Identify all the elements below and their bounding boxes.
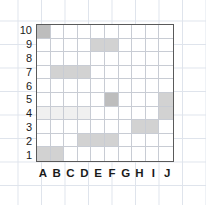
grid-cell-E8[interactable] <box>91 52 105 66</box>
grid-cell-A1[interactable] <box>37 147 51 161</box>
grid-cell-C6[interactable] <box>64 79 78 93</box>
grid-cell-I8[interactable] <box>146 52 160 66</box>
grid-cell-J5[interactable] <box>159 93 173 107</box>
grid-cell-G3[interactable] <box>119 120 133 134</box>
grid-cell-B3[interactable] <box>51 120 65 134</box>
grid-cell-G1[interactable] <box>119 147 133 161</box>
grid-cell-D4[interactable] <box>78 107 92 121</box>
grid-cell-C1[interactable] <box>64 147 78 161</box>
grid-cell-B10[interactable] <box>51 25 65 39</box>
grid-cell-F8[interactable] <box>105 52 119 66</box>
grid-cell-F7[interactable] <box>105 66 119 80</box>
grid-cell-F3[interactable] <box>105 120 119 134</box>
grid-cell-G4[interactable] <box>119 107 133 121</box>
grid-cell-B6[interactable] <box>51 79 65 93</box>
grid-cell-H6[interactable] <box>132 79 146 93</box>
grid-cell-G10[interactable] <box>119 25 133 39</box>
grid-cell-A7[interactable] <box>37 66 51 80</box>
grid-cell-E2[interactable] <box>91 134 105 148</box>
grid-cell-I7[interactable] <box>146 66 160 80</box>
grid-cell-D1[interactable] <box>78 147 92 161</box>
grid-cell-G2[interactable] <box>119 134 133 148</box>
grid-cell-J6[interactable] <box>159 79 173 93</box>
grid-cell-J10[interactable] <box>159 25 173 39</box>
grid-cell-D3[interactable] <box>78 120 92 134</box>
grid-cell-F1[interactable] <box>105 147 119 161</box>
grid-cell-A4[interactable] <box>37 107 51 121</box>
grid-cell-B8[interactable] <box>51 52 65 66</box>
grid-cell-C7[interactable] <box>64 66 78 80</box>
grid-cell-E4[interactable] <box>91 107 105 121</box>
grid-cell-G9[interactable] <box>119 39 133 53</box>
grid-cell-A6[interactable] <box>37 79 51 93</box>
grid-cell-F4[interactable] <box>105 107 119 121</box>
grid-cell-C5[interactable] <box>64 93 78 107</box>
grid-cell-A10[interactable] <box>37 25 51 39</box>
grid-cell-J1[interactable] <box>159 147 173 161</box>
grid-cell-F5[interactable] <box>105 93 119 107</box>
grid-cell-C4[interactable] <box>64 107 78 121</box>
grid-cell-A2[interactable] <box>37 134 51 148</box>
grid-cell-J4[interactable] <box>159 107 173 121</box>
grid-cell-H1[interactable] <box>132 147 146 161</box>
grid-cell-J9[interactable] <box>159 39 173 53</box>
grid-cell-A3[interactable] <box>37 120 51 134</box>
grid-cell-H3[interactable] <box>132 120 146 134</box>
grid-cell-I4[interactable] <box>146 107 160 121</box>
grid-cell-G5[interactable] <box>119 93 133 107</box>
grid-cell-D5[interactable] <box>78 93 92 107</box>
grid-cell-C3[interactable] <box>64 120 78 134</box>
grid-cell-C9[interactable] <box>64 39 78 53</box>
grid-cell-D7[interactable] <box>78 66 92 80</box>
grid-cell-C8[interactable] <box>64 52 78 66</box>
grid-cell-E9[interactable] <box>91 39 105 53</box>
grid-cell-D8[interactable] <box>78 52 92 66</box>
grid-cell-B2[interactable] <box>51 134 65 148</box>
grid-cell-G8[interactable] <box>119 52 133 66</box>
grid-cell-J3[interactable] <box>159 120 173 134</box>
grid-cell-D9[interactable] <box>78 39 92 53</box>
grid-cell-J8[interactable] <box>159 52 173 66</box>
grid-cell-H4[interactable] <box>132 107 146 121</box>
grid-cell-F10[interactable] <box>105 25 119 39</box>
grid-cell-D10[interactable] <box>78 25 92 39</box>
grid-cell-I6[interactable] <box>146 79 160 93</box>
grid-cell-B4[interactable] <box>51 107 65 121</box>
grid-cell-I1[interactable] <box>146 147 160 161</box>
grid-cell-J2[interactable] <box>159 134 173 148</box>
grid-cell-I5[interactable] <box>146 93 160 107</box>
grid-cell-B9[interactable] <box>51 39 65 53</box>
grid-cell-G6[interactable] <box>119 79 133 93</box>
grid-cell-H9[interactable] <box>132 39 146 53</box>
grid-cell-E7[interactable] <box>91 66 105 80</box>
grid-cell-I9[interactable] <box>146 39 160 53</box>
grid-cell-F9[interactable] <box>105 39 119 53</box>
grid-cell-B5[interactable] <box>51 93 65 107</box>
grid-cell-H8[interactable] <box>132 52 146 66</box>
grid-cell-J7[interactable] <box>159 66 173 80</box>
grid-cell-B7[interactable] <box>51 66 65 80</box>
grid-cell-E3[interactable] <box>91 120 105 134</box>
grid-cell-F6[interactable] <box>105 79 119 93</box>
grid-cell-B1[interactable] <box>51 147 65 161</box>
grid-cell-F2[interactable] <box>105 134 119 148</box>
grid-cell-H2[interactable] <box>132 134 146 148</box>
grid-cell-C2[interactable] <box>64 134 78 148</box>
grid-cell-H5[interactable] <box>132 93 146 107</box>
grid-cell-C10[interactable] <box>64 25 78 39</box>
grid-cell-E5[interactable] <box>91 93 105 107</box>
grid-cell-D6[interactable] <box>78 79 92 93</box>
grid-cell-I2[interactable] <box>146 134 160 148</box>
grid-cell-A8[interactable] <box>37 52 51 66</box>
grid-cell-G7[interactable] <box>119 66 133 80</box>
grid-cell-I10[interactable] <box>146 25 160 39</box>
grid-cell-H10[interactable] <box>132 25 146 39</box>
grid-cell-E10[interactable] <box>91 25 105 39</box>
grid-cell-E6[interactable] <box>91 79 105 93</box>
grid-cell-A5[interactable] <box>37 93 51 107</box>
grid-cell-H7[interactable] <box>132 66 146 80</box>
grid-cell-A9[interactable] <box>37 39 51 53</box>
grid-cell-D2[interactable] <box>78 134 92 148</box>
grid-cell-I3[interactable] <box>146 120 160 134</box>
grid-cell-E1[interactable] <box>91 147 105 161</box>
